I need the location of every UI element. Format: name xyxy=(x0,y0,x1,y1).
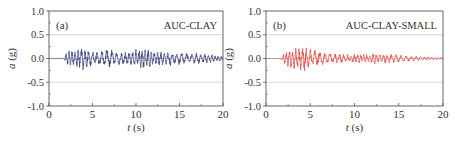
y-tick-label: -1.0 xyxy=(244,101,261,112)
x-tick-label: 5 xyxy=(308,108,314,120)
y-axis-label: a (g) xyxy=(222,48,235,69)
panel-label: (a) xyxy=(56,19,69,32)
y-tick-label: 0.5 xyxy=(248,29,261,40)
acceleration-waveform xyxy=(266,48,443,71)
y-tick-label: 0.0 xyxy=(248,53,261,64)
chart-title: AUC-CLAY xyxy=(164,20,218,31)
y-tick-label: 1.0 xyxy=(248,6,261,17)
chart-canvas: 1.00.50.0-0.5-1.005101520t (s)a (g)(a)AU… xyxy=(0,0,455,142)
y-tick-label: -0.5 xyxy=(27,77,44,88)
x-tick-label: 0 xyxy=(263,108,269,120)
y-tick-label: 1.0 xyxy=(31,6,44,17)
y-tick-label: 0.5 xyxy=(31,29,44,40)
panel-label: (b) xyxy=(273,19,286,32)
chart-panel-a: 1.00.50.0-0.5-1.005101520t (s)a (g)(a)AU… xyxy=(5,6,229,135)
x-tick-label: 0 xyxy=(46,108,52,120)
chart-title: AUC-CLAY-SMALL xyxy=(346,20,437,31)
chart-panel-b: 1.00.50.0-0.5-1.005101520t (s)a (g)(b)AU… xyxy=(222,6,449,135)
x-tick-label: 20 xyxy=(218,108,230,120)
y-tick-label: 0.0 xyxy=(31,53,44,64)
x-axis-label: t (s) xyxy=(346,121,364,134)
y-tick-label: -1.0 xyxy=(27,101,44,112)
x-tick-label: 10 xyxy=(349,108,361,120)
x-axis-label: t (s) xyxy=(127,121,145,134)
y-axis-label: a (g) xyxy=(5,48,18,69)
acceleration-waveform xyxy=(49,49,223,70)
y-tick-label: -0.5 xyxy=(244,77,261,88)
x-tick-label: 20 xyxy=(438,108,450,120)
x-tick-label: 15 xyxy=(174,108,186,120)
x-tick-label: 10 xyxy=(131,108,143,120)
figure: 1.00.50.0-0.5-1.005101520t (s)a (g)(a)AU… xyxy=(0,0,455,142)
x-tick-label: 15 xyxy=(393,108,405,120)
x-tick-label: 5 xyxy=(90,108,96,120)
